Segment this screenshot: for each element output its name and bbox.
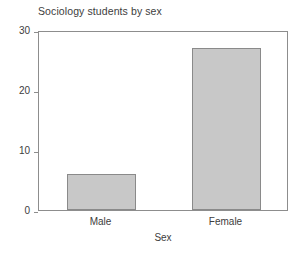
y-tick-label: 30	[19, 25, 30, 36]
plot-area: 0102030	[38, 31, 288, 211]
y-tick-mark	[34, 92, 38, 93]
y-tick-label: 0	[24, 205, 30, 216]
y-tick-mark	[34, 212, 38, 213]
x-tick-label: Female	[209, 216, 242, 227]
bar	[67, 174, 135, 210]
y-tick-label: 20	[19, 85, 30, 96]
y-tick-mark	[34, 152, 38, 153]
bars-layer	[39, 32, 287, 210]
chart-title: Sociology students by sex	[38, 5, 162, 17]
x-axis-label: Sex	[154, 232, 171, 243]
bar	[192, 48, 260, 210]
bar-chart-figure: Sociology students by sex Frequency 0102…	[0, 0, 300, 255]
y-tick-mark	[34, 32, 38, 33]
y-tick-label: 10	[19, 145, 30, 156]
x-tick-label: Male	[90, 216, 112, 227]
